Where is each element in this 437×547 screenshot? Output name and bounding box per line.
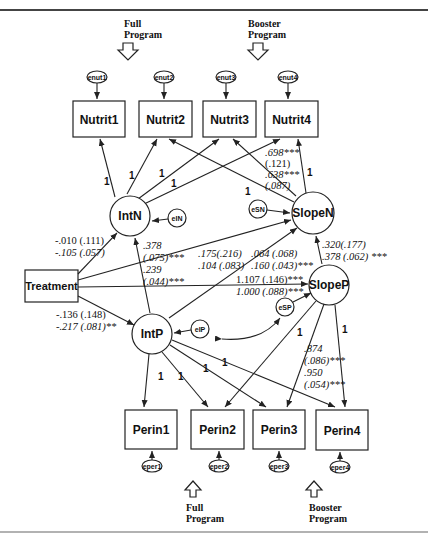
coef-intp-intn-4: (.044)*** [143, 276, 185, 288]
coef-treat-slopep-1: 1.107 (.146)*** [236, 274, 303, 286]
up-arrow-icon [185, 481, 201, 497]
box-treatment: Treatment [25, 270, 78, 302]
error-esn: eSN [249, 200, 267, 218]
coef-slopen-nutrit3-1: .698*** [265, 147, 300, 158]
latent-intn: IntN [110, 196, 150, 236]
down-arrow-icon [118, 43, 138, 60]
coef-slopep-slopen-1: .320(.177) [322, 239, 366, 251]
coef-slopep-perin3-1: .874 [304, 343, 323, 354]
error-ein: eIN [168, 209, 186, 227]
coef-treat-intp-2: -.217 (.081)** [56, 321, 117, 333]
svg-text:Perin4: Perin4 [324, 424, 361, 438]
nutrit-error-enut2: enut2 [154, 71, 174, 83]
coef-slopen-nutrit3-4: (.087) [265, 180, 291, 192]
svg-text:IntP: IntP [141, 327, 164, 341]
loading-intp-perin1: 1 [158, 371, 164, 382]
perin-error-eper2: eper2 [209, 460, 229, 472]
svg-text:SlopeP: SlopeP [309, 278, 350, 292]
perin-error-eper3: eper3 [269, 460, 289, 472]
coef-intp-intn-1: .378 [143, 240, 162, 251]
svg-text:Perin1: Perin1 [133, 423, 170, 437]
loading-intp-perin3: 1 [203, 363, 209, 374]
perin-error-eper4: eper4 [330, 461, 350, 473]
svg-text:Perin2: Perin2 [199, 423, 236, 437]
down-arrow-icon [248, 43, 268, 60]
loading-intp-perin4: 1 [222, 357, 228, 368]
loading-intn-nutrit1: 1 [104, 176, 110, 187]
svg-text:Nutrit4: Nutrit4 [272, 113, 311, 127]
bottom-full-label: Full [186, 502, 203, 513]
loading-intp-perin2: 1 [178, 371, 184, 382]
svg-text:eSP: eSP [278, 304, 292, 311]
coef-slopen-nutrit3-3: .638*** [265, 169, 300, 180]
coef-treat-intp-1: -.136 (.148) [56, 309, 106, 321]
svg-text:enut4: enut4 [279, 74, 298, 81]
latent-intp: IntP [132, 314, 172, 354]
svg-text:Nutrit1: Nutrit1 [80, 113, 119, 127]
svg-text:eIP: eIP [195, 326, 206, 333]
latent-slopen: SlopeN [292, 192, 334, 234]
loading-intn-nutrit2: 1 [129, 170, 135, 181]
nutrit-error-enut3: enut3 [216, 71, 236, 83]
svg-text:SlopeN: SlopeN [292, 206, 333, 220]
coef-treat-slopen-1: .175(.216) [198, 248, 242, 260]
loading-intn-nutrit3: 1 [159, 168, 165, 179]
coef-slopep-perin3-3: .950 [304, 367, 323, 378]
nutrit-error-enut1: enut1 [87, 71, 107, 83]
box-perin3: Perin3 [253, 410, 305, 449]
box-perin1: Perin1 [125, 410, 177, 449]
nutrit-error-enut4: enut4 [278, 71, 298, 83]
error-eip: eIP [191, 320, 209, 338]
coef-intp-slopen-1: .064 (.068) [251, 248, 298, 260]
box-nutrit3: Nutrit3 [203, 101, 256, 137]
bottom-full-label-2: Program [186, 513, 225, 524]
svg-text:Nutrit3: Nutrit3 [210, 113, 249, 127]
bottom-booster-label-2: Program [309, 513, 348, 524]
svg-text:enut1: enut1 [88, 74, 107, 81]
error-esp: eSP [276, 298, 294, 316]
box-nutrit4: Nutrit4 [265, 101, 318, 137]
loading-slopen-nutrit2: 1 [245, 186, 251, 197]
svg-text:enut3: enut3 [217, 74, 236, 81]
svg-text:eper1: eper1 [143, 463, 162, 471]
top-full-label: Full [124, 18, 141, 29]
coef-intp-slopen-2: .160 (.043)*** [251, 260, 314, 272]
loading-intn-nutrit4: 1 [171, 178, 177, 189]
svg-text:eSN: eSN [251, 206, 265, 213]
box-nutrit2: Nutrit2 [139, 101, 192, 137]
up-arrow-icon [306, 481, 322, 497]
top-full-label-2: Program [124, 29, 163, 40]
box-nutrit1: Nutrit1 [73, 101, 125, 137]
perin-error-eper1: eper1 [142, 460, 162, 472]
coef-slopep-perin3-2: (.086)*** [304, 355, 346, 367]
coef-slopep-perin3-4: (.054)*** [304, 379, 346, 391]
latent-slopep: SlopeP [309, 265, 350, 305]
coef-treat-intn-1: -.010 (.111) [55, 235, 105, 247]
svg-text:Perin3: Perin3 [261, 423, 298, 437]
svg-text:eper4: eper4 [331, 464, 350, 472]
top-booster-label-2: Program [248, 29, 287, 40]
coef-intp-intn-3: .239 [143, 264, 162, 275]
svg-text:eIN: eIN [172, 215, 183, 222]
loading-slopen-nutrit4: 1 [307, 167, 313, 178]
box-perin2: Perin2 [191, 410, 244, 449]
coef-intp-intn-2: (.075)*** [143, 252, 185, 264]
loading-slopep-perin4: 1 [342, 324, 348, 335]
svg-text:enut2: enut2 [155, 74, 174, 81]
svg-text:IntN: IntN [118, 209, 141, 223]
coef-treat-intn-2: -.105 (.057) [55, 247, 105, 259]
coef-slopep-slopen-2: .378 (.062) *** [322, 251, 387, 263]
covariance-eip-esp [222, 318, 280, 339]
coef-treat-slopep-2: 1.000 (.088)*** [236, 286, 304, 298]
svg-text:Nutrit2: Nutrit2 [146, 113, 185, 127]
sem-path-diagram: Full Program Booster Program enut1 enut2… [0, 0, 437, 547]
svg-text:eper3: eper3 [270, 463, 289, 471]
box-perin4: Perin4 [316, 410, 368, 450]
top-booster-label: Booster [248, 18, 281, 29]
svg-text:Treatment: Treatment [25, 280, 78, 292]
loading-slopep-perin2: 1 [297, 327, 303, 338]
bottom-booster-label: Booster [309, 502, 342, 513]
svg-text:eper2: eper2 [210, 463, 229, 471]
